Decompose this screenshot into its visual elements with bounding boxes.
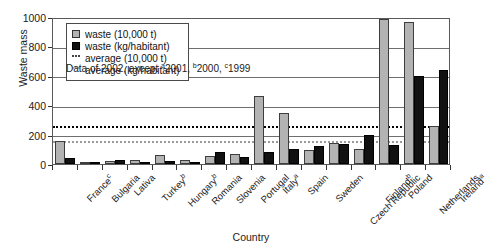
bar-waste-kg-habitant [190, 162, 200, 164]
bar-waste-10000t [304, 150, 314, 164]
bar-group [130, 160, 150, 164]
legend-item-waste-kg-habitant: waste (kg/habitant) [72, 40, 180, 52]
bar-group [205, 152, 225, 164]
x-category-label: Spain [305, 172, 330, 197]
bar-waste-10000t [404, 22, 414, 164]
bar-waste-10000t [105, 161, 115, 164]
bar-group [404, 22, 424, 164]
bar-group [105, 160, 125, 164]
bar-waste-10000t [379, 19, 389, 164]
bar-group [429, 70, 449, 164]
bar-waste-kg-habitant [215, 152, 225, 164]
bar-waste-kg-habitant [165, 161, 175, 164]
bar-waste-10000t [354, 149, 364, 164]
x-category-label: Sweden [333, 172, 365, 204]
legend-label: waste (kg/habitant) [85, 41, 170, 52]
bar-group [230, 154, 250, 164]
bar-waste-10000t [180, 160, 190, 164]
y-tick-label: 400 [12, 101, 46, 112]
data-source-note: Data of 2002, except a2001, b2000, c1999 [66, 62, 250, 74]
y-tick-label: 600 [12, 72, 46, 83]
bar-group [254, 96, 274, 164]
note-year-b: 2000, [197, 63, 225, 74]
bar-waste-10000t [329, 143, 339, 164]
bar-waste-10000t [279, 113, 289, 164]
bar-waste-10000t [130, 160, 140, 164]
bar-waste-kg-habitant [339, 144, 349, 164]
note-year-c: 1999 [228, 63, 250, 74]
bar-waste-kg-habitant [140, 162, 150, 164]
bar-group [80, 162, 100, 164]
bar-group [304, 146, 324, 164]
bar-waste-kg-habitant [264, 152, 274, 164]
legend-swatch-black-square-icon [72, 42, 80, 50]
bar-waste-10000t [80, 162, 90, 164]
y-tick-label: 1000 [12, 13, 46, 24]
bar-group [379, 19, 399, 164]
bar-waste-10000t [55, 141, 65, 164]
bar-group [279, 113, 299, 164]
y-tick-label: 800 [12, 42, 46, 53]
legend-item-waste-10000t: waste (10,000 t) [72, 28, 180, 40]
x-axis-category-labels: FrancecBulgariaLativaTurkeybHungarybRoma… [0, 165, 462, 227]
x-label-text: Sweden [333, 172, 365, 204]
bar-waste-kg-habitant [240, 157, 250, 164]
x-label-text: Turkey [159, 176, 187, 204]
note-prefix: Data of 2002, except [66, 63, 161, 74]
bar-group [354, 135, 374, 164]
bar-group [180, 160, 200, 164]
legend-label: waste (10,000 t) [85, 29, 157, 40]
bar-waste-10000t [205, 156, 215, 164]
bar-waste-10000t [254, 96, 264, 164]
bar-waste-kg-habitant [289, 149, 299, 164]
bar-group [155, 155, 175, 164]
bar-waste-kg-habitant [90, 162, 100, 164]
bar-waste-10000t [230, 154, 240, 164]
bar-waste-kg-habitant [414, 76, 424, 164]
note-year-a: 2001, [165, 63, 193, 74]
bar-waste-kg-habitant [364, 135, 374, 164]
legend-swatch-gray-square-icon [72, 30, 80, 38]
bar-group [55, 141, 75, 164]
bar-waste-kg-habitant [389, 145, 399, 164]
bar-waste-10000t [429, 126, 439, 165]
bar-waste-kg-habitant [65, 158, 75, 164]
bar-waste-kg-habitant [314, 146, 324, 164]
bar-waste-kg-habitant [115, 160, 125, 164]
bar-waste-10000t [155, 155, 165, 164]
x-axis-title: Country [52, 231, 450, 243]
bar-waste-kg-habitant [439, 70, 449, 164]
bar-group [329, 143, 349, 164]
x-label-text: Spain [305, 172, 330, 197]
y-tick-label: 200 [12, 130, 46, 141]
